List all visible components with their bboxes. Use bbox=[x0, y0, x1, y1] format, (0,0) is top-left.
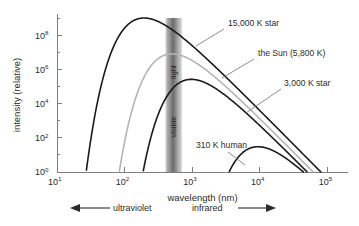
blackbody-spectrum-figure: 101102103104105100102104106108 15,000 K … bbox=[0, 0, 359, 226]
infrared-label: infrared bbox=[192, 203, 223, 213]
annotation-2: 3,000 K star bbox=[284, 78, 330, 88]
curve-annotations: 15,000 K starthe Sun (5,800 K)3,000 K st… bbox=[196, 18, 330, 150]
spectrum-region-markers: ultravioletinfrared bbox=[70, 203, 276, 213]
y-axis-title: intensity (relative) bbox=[11, 58, 22, 132]
annotation-3: 310 K human bbox=[196, 140, 247, 150]
ultraviolet-label: ultraviolet bbox=[113, 203, 152, 213]
x-tick-label-0: 101 bbox=[48, 175, 62, 187]
x-tick-label-3: 104 bbox=[251, 175, 265, 187]
x-axis-title: wavelength (nm) bbox=[166, 192, 237, 203]
y-tick-label-0: 100 bbox=[35, 166, 49, 178]
curve-1 bbox=[119, 54, 313, 172]
ultraviolet-arrow-head bbox=[70, 204, 80, 212]
band-label-visible: visible bbox=[169, 116, 178, 137]
leader-line-3 bbox=[228, 152, 245, 165]
infrared-arrow-head bbox=[266, 204, 276, 212]
x-tick-label-2: 103 bbox=[183, 175, 197, 187]
y-tick-label-2: 104 bbox=[35, 97, 49, 109]
y-tick-label-4: 108 bbox=[35, 29, 49, 41]
chart-svg: 101102103104105100102104106108 15,000 K … bbox=[0, 0, 359, 226]
x-tick-label-4: 105 bbox=[319, 175, 333, 187]
y-tick-label-1: 102 bbox=[35, 132, 49, 144]
annotation-0: 15,000 K star bbox=[228, 18, 279, 28]
y-tick-label-3: 106 bbox=[35, 63, 49, 75]
leader-line-0 bbox=[196, 29, 224, 46]
x-tick-label-1: 102 bbox=[116, 175, 130, 187]
band-label-light: light bbox=[169, 64, 178, 79]
leader-line-1 bbox=[222, 59, 254, 78]
annotation-1: the Sun (5,800 K) bbox=[258, 48, 325, 58]
